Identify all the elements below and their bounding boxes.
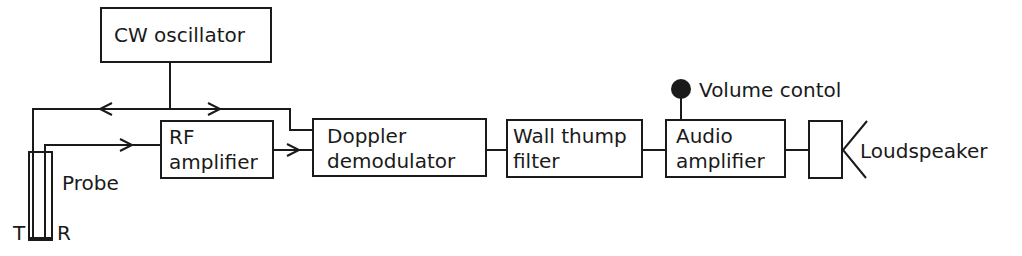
cw-oscillator-block: CW oscillator <box>101 8 271 62</box>
audio-amplifier-label-1: Audio <box>676 124 733 148</box>
loudspeaker-label: Loudspeaker <box>860 139 988 163</box>
cw-doppler-block-diagram: CW oscillator RF amplifier Doppler demod… <box>0 0 1022 256</box>
audio-amplifier-block: Audio amplifier <box>666 120 785 177</box>
rf-amplifier-label-1: RF <box>169 125 194 149</box>
loudspeaker-magnet <box>809 121 842 178</box>
probe-label: Probe <box>62 171 119 195</box>
volume-control: Volume contol <box>671 78 841 120</box>
probe-tip <box>28 237 53 241</box>
wall-thump-filter-label-1: Wall thump <box>513 124 627 148</box>
doppler-demodulator-label-2: demodulator <box>327 149 456 173</box>
cw-oscillator-label: CW oscillator <box>114 23 246 47</box>
wall-thump-filter-label-2: filter <box>513 149 560 173</box>
rf-amplifier-block: RF amplifier <box>161 121 273 178</box>
doppler-demodulator-block: Doppler demodulator <box>313 119 486 176</box>
probe-receive-wire <box>45 145 160 152</box>
probe: Probe T R <box>12 152 119 245</box>
rf-amplifier-label-2: amplifier <box>169 150 258 174</box>
receive-label: R <box>57 221 71 245</box>
loudspeaker: Loudspeaker <box>809 121 988 178</box>
wall-thump-filter-block: Wall thump filter <box>507 120 642 177</box>
volume-control-label: Volume contol <box>699 78 841 102</box>
audio-amplifier-label-2: amplifier <box>676 149 765 173</box>
volume-knob-icon <box>671 79 691 99</box>
doppler-demodulator-label-1: Doppler <box>327 124 407 148</box>
transmit-label: T <box>12 221 26 245</box>
